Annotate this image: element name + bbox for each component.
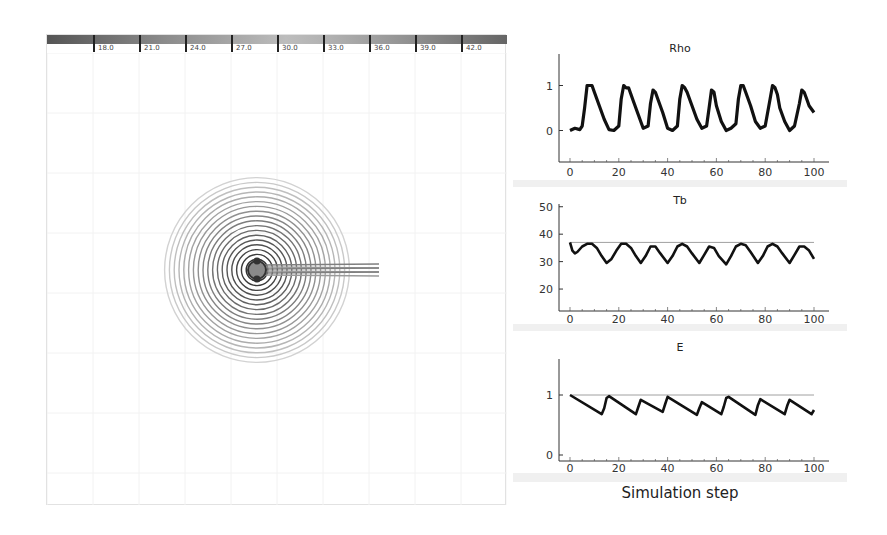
svg-text:40: 40 bbox=[661, 166, 675, 179]
colorbar-tick bbox=[277, 35, 279, 52]
colorbar-tick-label: 30.0 bbox=[282, 44, 298, 52]
colorbar-tick-label: 39.0 bbox=[420, 44, 436, 52]
colorbar-tick-label: 18.0 bbox=[98, 44, 114, 52]
svg-text:1: 1 bbox=[546, 80, 553, 93]
svg-text:20: 20 bbox=[612, 313, 626, 324]
svg-text:60: 60 bbox=[709, 313, 723, 324]
svg-text:20: 20 bbox=[612, 166, 626, 179]
tb-chart-title: Tb bbox=[513, 194, 847, 207]
colorbar-tick-label: 24.0 bbox=[190, 44, 206, 52]
svg-text:60: 60 bbox=[709, 166, 723, 179]
svg-text:100: 100 bbox=[804, 166, 825, 179]
svg-text:0: 0 bbox=[567, 313, 574, 324]
colorbar-tick bbox=[369, 35, 371, 52]
colorbar-tick-label: 42.0 bbox=[466, 44, 482, 52]
x-axis-label: Simulation step bbox=[513, 484, 847, 502]
svg-text:80: 80 bbox=[758, 313, 772, 324]
svg-text:40: 40 bbox=[539, 228, 553, 241]
charts-panel: Rho 02040608010001 Tb 020406080100203040… bbox=[513, 36, 847, 482]
svg-text:0: 0 bbox=[546, 125, 553, 138]
colorbar-tick-label: 21.0 bbox=[144, 44, 160, 52]
e-chart-title: E bbox=[513, 341, 847, 354]
colorbar-tick bbox=[231, 35, 233, 52]
rho-chart: Rho 02040608010001 bbox=[513, 36, 847, 180]
svg-text:30: 30 bbox=[539, 256, 553, 269]
svg-text:20: 20 bbox=[612, 462, 626, 473]
tb-chart: Tb 02040608010020304050 bbox=[513, 187, 847, 324]
svg-text:100: 100 bbox=[804, 313, 825, 324]
svg-text:40: 40 bbox=[661, 313, 675, 324]
colorbar-tick-label: 33.0 bbox=[328, 44, 344, 52]
e-chart: E 02040608010001 bbox=[513, 331, 847, 473]
svg-text:0: 0 bbox=[567, 462, 574, 473]
colorbar-tick bbox=[461, 35, 463, 52]
svg-text:60: 60 bbox=[709, 462, 723, 473]
rho-chart-title: Rho bbox=[513, 42, 847, 55]
svg-text:0: 0 bbox=[546, 449, 553, 462]
colorbar-tick-label: 36.0 bbox=[374, 44, 390, 52]
colorbar-tick-label: 27.0 bbox=[236, 44, 252, 52]
svg-text:20: 20 bbox=[539, 283, 553, 296]
svg-text:80: 80 bbox=[758, 462, 772, 473]
svg-text:100: 100 bbox=[804, 462, 825, 473]
colorbar-tick bbox=[323, 35, 325, 52]
colorbar-tick bbox=[185, 35, 187, 52]
simulation-view-panel: 18.021.024.027.030.033.036.039.042.0 bbox=[46, 34, 506, 505]
rho-plot: 02040608010001 bbox=[513, 36, 847, 180]
tb-plot: 02040608010020304050 bbox=[513, 187, 847, 324]
colorbar-tick bbox=[139, 35, 141, 52]
svg-text:1: 1 bbox=[546, 389, 553, 402]
svg-text:0: 0 bbox=[567, 166, 574, 179]
colorbar-tick bbox=[415, 35, 417, 52]
svg-text:40: 40 bbox=[661, 462, 675, 473]
simulation-canvas bbox=[47, 53, 507, 505]
colorbar-tick bbox=[93, 35, 95, 52]
svg-text:80: 80 bbox=[758, 166, 772, 179]
